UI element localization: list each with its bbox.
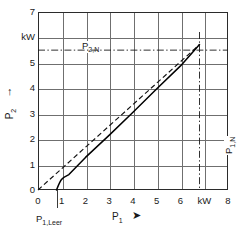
y-axis-title: ↑ P2 [2,86,16,146]
x-axis-arrow-icon: ➤ [132,210,141,220]
x-tick-5: 5 [144,196,170,206]
x-axis-title-symbol: P [112,211,119,222]
y-tick-0: 0 [8,185,35,195]
x-axis-title-subscript: 1 [119,217,123,224]
series-actual-solid [57,45,200,190]
y-axis-title-subscript: 2 [10,109,17,113]
y-tick-7: 7 [8,7,35,17]
x-tick-kw: kW [191,196,217,206]
x-tick-2: 2 [73,196,99,206]
y-tick-kw: kW [8,32,35,42]
annotation-p1leer: P1,Leer [36,214,62,226]
y-axis-arrow-icon: ↑ [7,86,13,97]
annotation-p1leer-subscript: 1,Leer [42,219,62,226]
y-axis-title-symbol: P [4,113,15,120]
x-axis-title: P1➤ [112,210,141,224]
x-tick-3: 3 [96,196,122,206]
x-tick-0: 0 [25,196,51,206]
x-tick-1: 1 [49,196,75,206]
x-tick-4: 4 [120,196,146,206]
y-tick-1: 1 [8,160,35,170]
x-tick-6: 6 [168,196,194,206]
y-tick-5: 5 [8,58,35,68]
y-axis-title-text: P2 [5,102,17,126]
chart-figure: P2,N P1,N 7 kW 5 4 3 2 1 0 0 1 2 3 4 5 6… [0,0,237,232]
x-tick-8: 8 [215,196,237,206]
series-ideal-dashed [38,45,200,190]
